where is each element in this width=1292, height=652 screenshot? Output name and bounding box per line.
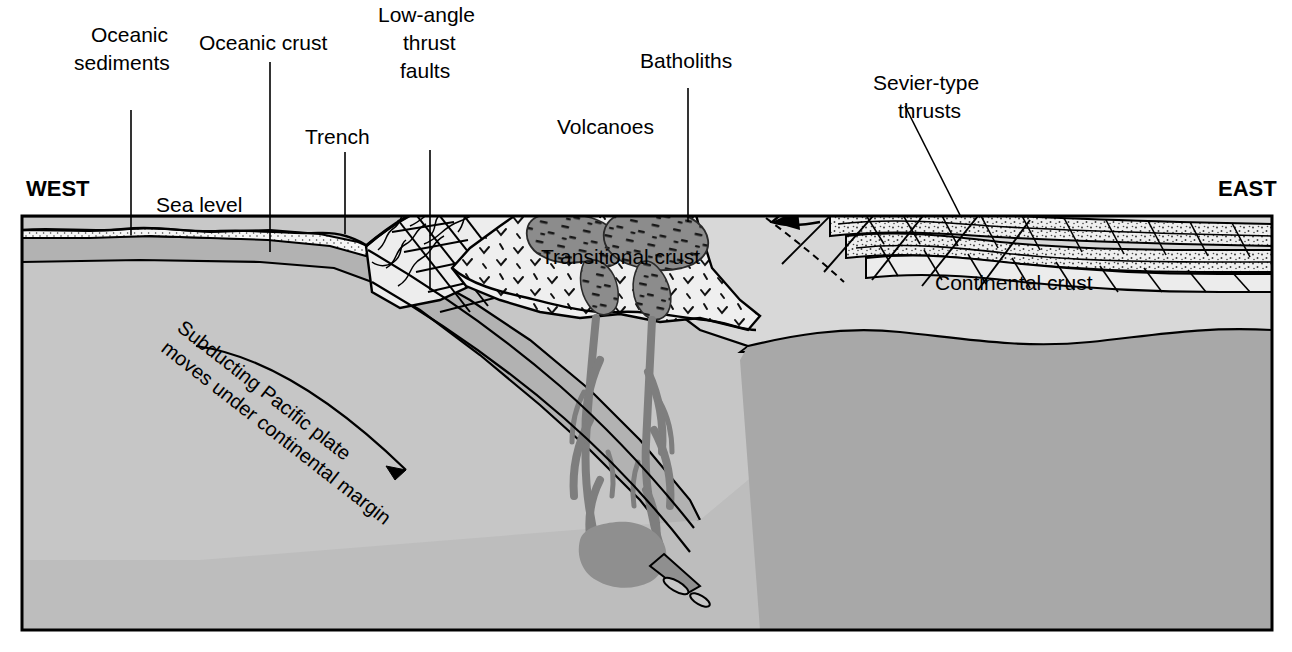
label-sea-level: Sea level — [156, 193, 242, 216]
label-low-angle-thrust-faults-line3: faults — [400, 59, 450, 82]
label-oceanic-sediments-line1: Oceanic — [91, 23, 168, 46]
label-transitional-crust: Transitional crust — [541, 245, 700, 268]
label-west: WEST — [26, 176, 90, 201]
label-oceanic-sediments-line2: sediments — [74, 51, 170, 74]
label-batholiths: Batholiths — [640, 49, 732, 72]
label-continental-crust: Continental crust — [935, 271, 1093, 294]
label-sevier-thrusts-line1: Sevier-type — [873, 71, 979, 94]
label-volcanoes: Volcanoes — [557, 115, 654, 138]
label-low-angle-thrust-faults-line1: Low-angle — [378, 3, 475, 26]
label-low-angle-thrust-faults-line2: thrust — [403, 31, 456, 54]
label-oceanic-crust: Oceanic crust — [199, 31, 328, 54]
label-sevier-thrusts-line2: thrusts — [898, 99, 961, 122]
continental-mantle — [740, 329, 1272, 630]
cross-section-figure: Oceanic sediments Oceanic crust Trench L… — [0, 0, 1292, 652]
label-trench: Trench — [305, 125, 370, 148]
label-east: EAST — [1218, 176, 1277, 201]
